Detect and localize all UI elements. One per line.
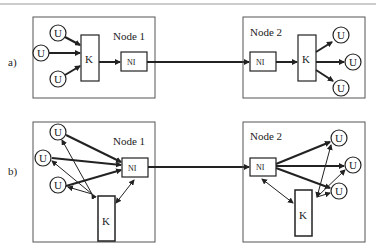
user-circles: U U U [331,130,361,199]
svg-text:U: U [39,152,47,164]
ni-label: NI [128,164,137,173]
user-circles: U U U [33,25,66,87]
svg-text:U: U [349,159,357,171]
node-2: Node 2 NI K U U U [243,17,365,98]
svg-text:U: U [349,56,357,68]
svg-text:U: U [54,126,62,138]
svg-text:U: U [335,132,343,144]
architecture-diagram: a) Node 1 K NI U U U N [0,0,376,252]
k-label: K [85,53,93,65]
svg-text:U: U [54,73,62,85]
svg-text:U: U [54,179,62,191]
panel-label: b) [8,165,18,178]
ni-label: NI [127,58,136,67]
node-title: Node 1 [113,135,145,147]
svg-text:U: U [37,47,45,59]
svg-text:U: U [337,82,345,94]
svg-text:U: U [337,29,345,41]
node-title: Node 1 [113,30,145,42]
node-1: Node 1 NI K U U U [33,122,155,242]
k-label: K [299,209,307,221]
node-2: Node 2 NI K U U U [243,122,365,242]
k-label: K [302,53,310,65]
panel-label: a) [8,56,17,69]
node-1: Node 1 K NI U U U [33,17,155,98]
ni-label: NI [256,163,265,172]
k-label: K [102,215,110,227]
node-title: Node 2 [250,26,282,38]
panel-a: a) Node 1 K NI U U U N [8,17,365,98]
ni-label: NI [256,58,265,67]
node-title: Node 2 [250,130,282,142]
panel-b: b) Node 1 NI K U U U [8,122,365,242]
svg-text:U: U [335,185,343,197]
svg-text:U: U [54,27,62,39]
